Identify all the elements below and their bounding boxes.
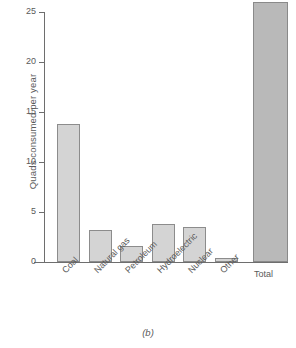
y-axis-tick-mark (39, 262, 45, 263)
y-axis-tick-mark (39, 62, 45, 63)
plot-area: 0510152025 CoalNatural gasPetroleumHydro… (44, 12, 288, 262)
y-axis-spine (44, 12, 45, 263)
y-axis-tick-mark (39, 162, 45, 163)
bar-total (253, 2, 288, 262)
figure-panel-b: Quads consumed per year 0510152025 CoalN… (0, 0, 296, 348)
x-axis-tick-label: Other (218, 252, 241, 275)
y-axis-tick-label: 25 (26, 6, 36, 17)
y-axis-tick-label: 5 (31, 206, 36, 217)
y-axis-tick-label: 10 (26, 156, 36, 167)
figure-caption: (b) (0, 327, 296, 338)
x-axis-tick-label: Total (254, 269, 273, 279)
y-axis-tick-mark (39, 12, 45, 13)
y-axis-tick-label: 20 (26, 56, 36, 67)
y-axis-tick-label: 0 (31, 256, 36, 267)
bar-coal (57, 124, 80, 262)
y-axis-tick-mark (39, 212, 45, 213)
y-axis-tick-mark (39, 112, 45, 113)
y-axis-tick-label: 15 (26, 106, 36, 117)
